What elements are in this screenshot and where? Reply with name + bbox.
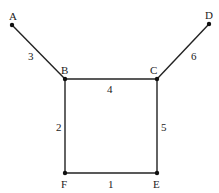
node-label: C [150, 64, 157, 76]
edge-weight-label: 5 [161, 121, 167, 133]
node-label: B [61, 64, 68, 76]
edge-C-D [157, 24, 209, 79]
node-C [155, 77, 159, 81]
node-label: D [205, 9, 213, 21]
node-A [10, 23, 14, 27]
edge-weight-label: 4 [107, 83, 113, 95]
node-label: F [61, 178, 67, 190]
weighted-graph-diagram: 346251ABCDEF [0, 0, 219, 193]
edge-weight-label: 2 [56, 121, 62, 133]
node-E [155, 171, 159, 175]
edge-weight-label: 1 [108, 178, 114, 190]
edge-weight-label: 3 [28, 50, 34, 62]
node-F [63, 171, 67, 175]
node-label: E [153, 178, 160, 190]
edge-weight-label: 6 [191, 50, 197, 62]
node-label: A [9, 10, 17, 22]
node-D [207, 22, 211, 26]
node-B [63, 77, 67, 81]
edge-A-B [12, 25, 65, 79]
